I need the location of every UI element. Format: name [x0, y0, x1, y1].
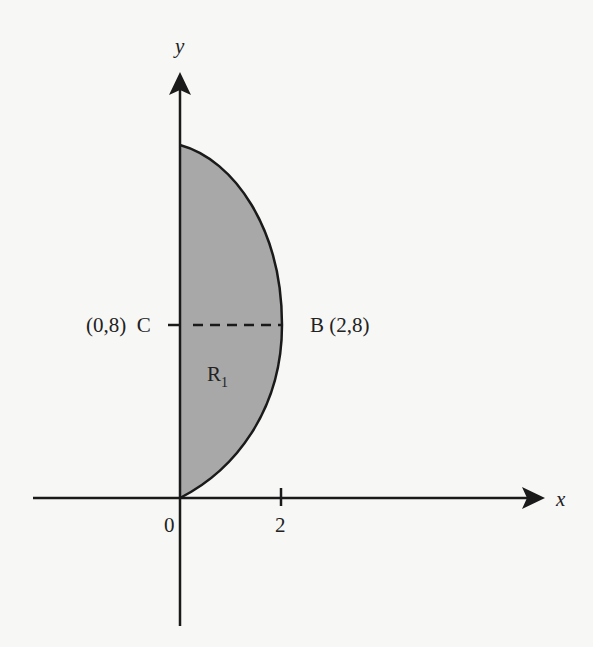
region-label-main: R: [207, 362, 221, 386]
diagram-canvas: y x 0 2 (0,8) C B (2,8) R1: [0, 0, 593, 647]
point-c-coords: (0,8): [86, 313, 126, 337]
point-c-label: (0,8) C: [86, 315, 151, 336]
point-b-name: B: [310, 313, 324, 337]
x-axis-label: x: [556, 489, 565, 510]
y-axis-label: y: [175, 36, 184, 57]
point-b-label: B (2,8): [310, 315, 370, 336]
region-label-subscript: 1: [221, 375, 228, 390]
x-tick-label-2: 2: [275, 515, 286, 536]
region-r1-label: R1: [207, 364, 228, 385]
origin-label: 0: [164, 515, 175, 536]
region-r1: [180, 145, 282, 498]
point-c-name: C: [137, 313, 151, 337]
point-b-coords: (2,8): [329, 313, 369, 337]
